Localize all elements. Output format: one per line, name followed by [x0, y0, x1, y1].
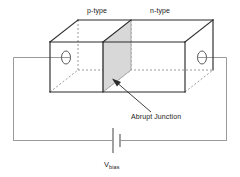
wire-left: [14, 58, 71, 141]
label-abrupt-junction: Abrupt Junction: [131, 113, 181, 120]
figure-canvas: p-type n-type Abrupt Junction Vbias: [0, 0, 240, 177]
vbias-subscript: bias: [109, 164, 120, 170]
edge-top-right-diagonal: [185, 20, 213, 42]
box-solid-edges: [50, 20, 213, 92]
junction-pointer-arrow: [112, 79, 151, 113]
pn-junction-diagram: [0, 0, 240, 177]
hidden-edge-left-bottom-diagonal: [50, 70, 78, 92]
box-hidden-edges: [50, 20, 213, 92]
battery-symbol: [113, 128, 120, 153]
edge-top-left-diagonal: [50, 20, 78, 42]
pointer-line: [115, 81, 151, 112]
label-vbias: Vbias: [104, 160, 120, 170]
label-n-type: n-type: [150, 7, 170, 14]
label-p-type: p-type: [87, 7, 107, 14]
hidden-edge-right-bottom-diagonal: [185, 70, 213, 92]
